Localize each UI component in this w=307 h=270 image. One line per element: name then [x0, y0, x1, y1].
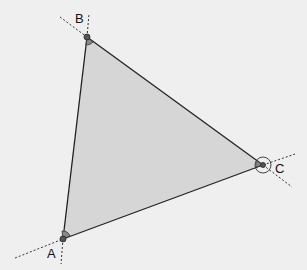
diagram-canvas: A B C: [0, 0, 307, 270]
vertex-point-c[interactable]: [261, 163, 266, 168]
vertex-point-b[interactable]: [84, 34, 90, 40]
vertex-point-a[interactable]: [60, 236, 66, 242]
extension-line-a-down: [61, 239, 63, 264]
triangle-diagram: A B C: [0, 0, 307, 270]
extension-line-a-bottom: [15, 239, 63, 258]
triangle-abc: [63, 37, 263, 239]
vertex-label-a: A: [47, 246, 56, 261]
extension-line-b-up: [87, 14, 89, 37]
vertex-label-c: C: [275, 161, 284, 176]
vertex-label-b: B: [75, 11, 84, 26]
